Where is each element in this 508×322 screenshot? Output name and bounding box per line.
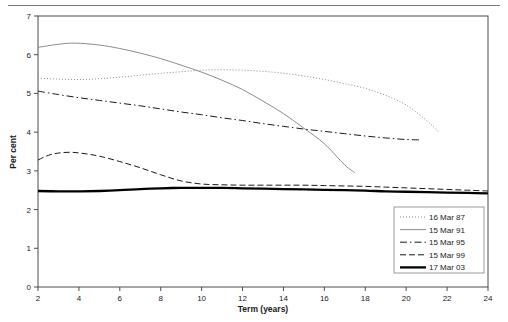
y-tick-label: 0 <box>27 283 32 292</box>
x-tick-label: 18 <box>361 294 370 303</box>
x-tick-label: 10 <box>197 294 206 303</box>
x-tick-label: 14 <box>279 294 288 303</box>
y-axis-title: Per cent <box>8 135 18 169</box>
y-tick-label: 4 <box>27 128 32 137</box>
y-axis-ticks <box>34 16 38 287</box>
legend-label: 15 Mar 99 <box>429 251 466 260</box>
series-line <box>38 91 421 140</box>
x-tick-label: 24 <box>484 294 493 303</box>
y-tick-label: 1 <box>27 244 32 253</box>
x-axis-tick-labels: 24681012141618202224 <box>36 294 493 303</box>
legend-label: 17 Mar 03 <box>429 263 466 272</box>
series-line <box>38 70 439 132</box>
x-tick-label: 16 <box>320 294 329 303</box>
chart-legend: 16 Mar 8715 Mar 9115 Mar 9515 Mar 9917 M… <box>394 207 484 273</box>
legend-label: 15 Mar 95 <box>429 238 466 247</box>
legend-label: 16 Mar 87 <box>429 213 466 222</box>
series-lines <box>38 43 488 193</box>
x-tick-label: 20 <box>402 294 411 303</box>
y-tick-label: 7 <box>27 12 32 21</box>
legend-label: 15 Mar 91 <box>429 226 466 235</box>
chart-svg: 01234567 24681012141618202224 Per cent T… <box>0 0 508 322</box>
x-tick-label: 22 <box>443 294 452 303</box>
x-axis-ticks <box>38 287 488 291</box>
y-tick-label: 6 <box>27 51 32 60</box>
y-tick-label: 2 <box>27 206 32 215</box>
x-tick-label: 12 <box>238 294 247 303</box>
x-tick-label: 8 <box>159 294 164 303</box>
y-axis-tick-labels: 01234567 <box>27 12 32 292</box>
series-line <box>38 152 488 191</box>
x-axis-title: Term (years) <box>238 304 289 314</box>
y-tick-label: 5 <box>27 89 32 98</box>
x-tick-label: 4 <box>77 294 82 303</box>
yield-curve-chart: 01234567 24681012141618202224 Per cent T… <box>0 0 508 322</box>
x-tick-label: 2 <box>36 294 41 303</box>
x-tick-label: 6 <box>118 294 123 303</box>
y-tick-label: 3 <box>27 167 32 176</box>
